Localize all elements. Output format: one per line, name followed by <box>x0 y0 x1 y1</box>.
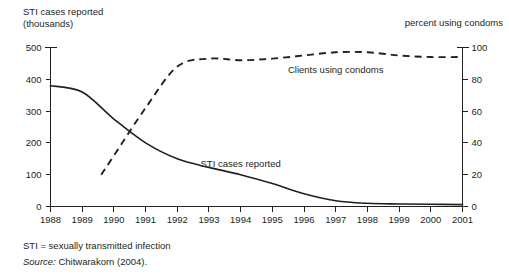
svg-text:300: 300 <box>26 106 42 117</box>
svg-text:Clients using condoms: Clients using condoms <box>288 64 384 75</box>
figure-container: STI cases reported (thousands) percent u… <box>0 0 509 279</box>
svg-text:20: 20 <box>472 169 483 180</box>
svg-text:1998: 1998 <box>357 214 378 225</box>
svg-text:1997: 1997 <box>325 214 346 225</box>
svg-text:1989: 1989 <box>72 214 93 225</box>
svg-text:60: 60 <box>472 106 483 117</box>
svg-text:1992: 1992 <box>167 214 188 225</box>
svg-text:40: 40 <box>472 137 483 148</box>
svg-text:100: 100 <box>26 169 42 180</box>
svg-text:80: 80 <box>472 74 483 85</box>
svg-text:1996: 1996 <box>293 214 314 225</box>
svg-text:1991: 1991 <box>135 214 156 225</box>
svg-text:500: 500 <box>26 42 42 53</box>
svg-text:1995: 1995 <box>262 214 283 225</box>
series-paths <box>51 52 463 205</box>
source-value: Chitwarakorn (2004). <box>58 256 147 267</box>
svg-text:2001: 2001 <box>452 214 473 225</box>
series-annotations: STI cases reportedClients using condoms <box>201 64 384 169</box>
svg-text:1993: 1993 <box>198 214 219 225</box>
svg-text:400: 400 <box>26 74 42 85</box>
svg-text:2000: 2000 <box>420 214 441 225</box>
svg-text:0: 0 <box>36 201 41 212</box>
svg-text:100: 100 <box>472 42 488 53</box>
svg-text:1988: 1988 <box>40 214 61 225</box>
right-axis-ticks: 020406080100 <box>463 42 488 212</box>
footnote-abbreviation: STI = sexually transmitted infection <box>23 238 171 254</box>
left-axis-ticks: 0100200300400500 <box>26 42 51 212</box>
svg-text:200: 200 <box>26 137 42 148</box>
footnotes: STI = sexually transmitted infection Sou… <box>23 238 171 270</box>
footnote-source: Source: Chitwarakorn (2004). <box>23 254 171 270</box>
x-axis-ticks: 1988198919901991199219931994199519961997… <box>40 207 473 225</box>
svg-text:1990: 1990 <box>103 214 124 225</box>
source-prefix: Source: <box>23 256 56 267</box>
svg-text:0: 0 <box>472 201 477 212</box>
svg-text:1999: 1999 <box>389 214 410 225</box>
svg-text:1994: 1994 <box>230 214 251 225</box>
axis-lines <box>45 48 469 207</box>
svg-text:STI cases reported: STI cases reported <box>201 158 281 169</box>
